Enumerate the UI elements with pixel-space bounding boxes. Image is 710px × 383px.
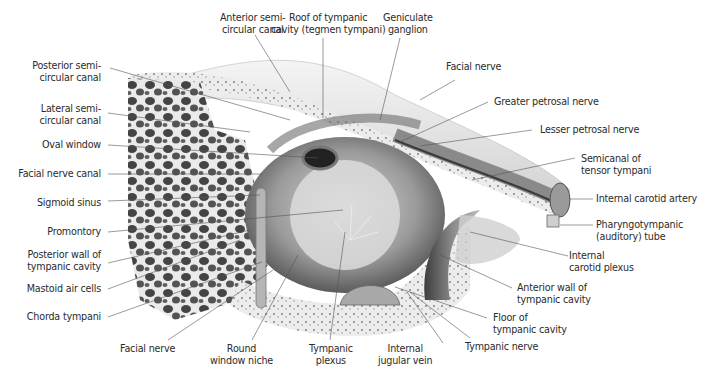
auditory-tube-end	[547, 215, 559, 227]
label-lesser-petrosal-nerve: Lesser petrosal nerve	[540, 124, 639, 136]
label-posterior-wall: Posterior wall of tympanic cavity	[27, 249, 101, 273]
label-tympanic-plexus: Tympanic plexus	[309, 343, 353, 367]
label-line: Lateral semi-	[39, 103, 101, 115]
label-line: Facial nerve	[446, 61, 501, 73]
label-mastoid-air-cells: Mastoid air cells	[27, 283, 101, 295]
label-pharyngotympanic-tube: Pharyngotympanic (auditory) tube	[596, 219, 683, 243]
label-tympanic-nerve: Tympanic nerve	[465, 341, 538, 353]
label-line: Tympanic	[309, 343, 353, 355]
label-line: Posterior semi-	[32, 60, 101, 72]
label-chorda-tympani: Chorda tympani	[27, 311, 101, 323]
label-line: window niche	[210, 355, 273, 367]
label-line: Floor of	[493, 312, 567, 324]
label-line: tympanic cavity	[27, 261, 101, 273]
label-promontory: Promontory	[47, 226, 101, 238]
label-internal-jugular-vein: Internal jugular vein	[378, 343, 432, 367]
label-sigmoid-sinus: Sigmoid sinus	[37, 197, 101, 209]
label-geniculate-ganglion: Geniculate ganglion	[383, 12, 433, 36]
label-line: Posterior wall of	[27, 249, 101, 261]
label-line: Round	[210, 343, 273, 355]
label-line: cavity (tegmen tympani)	[271, 24, 386, 36]
label-line: Internal	[378, 343, 432, 355]
label-semicanal-tensor-tympani: Semicanal of tensor tympani	[581, 153, 651, 177]
label-line: Promontory	[47, 226, 101, 238]
label-line: Geniculate	[383, 12, 433, 24]
label-line: circular canal	[39, 115, 101, 127]
label-facial-nerve-top: Facial nerve	[446, 61, 501, 73]
label-roof-of-tympanic-cavity: Roof of tympanic cavity (tegmen tympani)	[271, 12, 386, 36]
label-lateral-semicircular-canal: Lateral semi- circular canal	[39, 103, 101, 127]
label-greater-petrosal-nerve: Greater petrosal nerve	[494, 96, 599, 108]
label-line: Internal carotid artery	[596, 193, 697, 205]
label-round-window-niche: Round window niche	[210, 343, 273, 367]
label-line: Anterior wall of	[517, 282, 591, 294]
label-line: Sigmoid sinus	[37, 197, 101, 209]
label-line: Oval window	[42, 139, 101, 151]
label-facial-nerve-canal: Facial nerve canal	[18, 168, 101, 180]
label-posterior-semicircular-canal: Posterior semi- circular canal	[32, 60, 101, 84]
label-line: (auditory) tube	[596, 231, 683, 243]
label-line: Chorda tympani	[27, 311, 101, 323]
label-line: Facial nerve canal	[18, 168, 101, 180]
promontory-bulge	[290, 160, 400, 270]
label-line: plexus	[309, 355, 353, 367]
label-line: Roof of tympanic	[271, 12, 386, 24]
label-line: circular canal	[32, 72, 101, 84]
carotid-artery-end	[550, 183, 570, 217]
label-line: carotid plexus	[569, 262, 634, 274]
label-internal-carotid-artery: Internal carotid artery	[596, 193, 697, 205]
label-line: Internal	[569, 250, 634, 262]
label-line: Mastoid air cells	[27, 283, 101, 295]
anatomy-figure: Anterior semi- circular canal Roof of ty…	[0, 0, 710, 383]
label-line: Tympanic nerve	[465, 341, 538, 353]
label-oval-window: Oval window	[42, 139, 101, 151]
label-facial-nerve-bottom: Facial nerve	[120, 343, 175, 355]
label-line: Lesser petrosal nerve	[540, 124, 639, 136]
label-internal-carotid-plexus: Internal carotid plexus	[569, 250, 634, 274]
label-line: Pharyngotympanic	[596, 219, 683, 231]
oval-window	[303, 147, 337, 169]
label-line: tympanic cavity	[517, 294, 591, 306]
label-line: tympanic cavity	[493, 324, 567, 336]
label-line: ganglion	[383, 24, 433, 36]
label-line: jugular vein	[378, 355, 432, 367]
label-anterior-wall: Anterior wall of tympanic cavity	[517, 282, 591, 306]
label-floor-of-tympanic-cavity: Floor of tympanic cavity	[493, 312, 567, 336]
tympanic-cavity-illustration	[0, 0, 710, 383]
label-line: Semicanal of	[581, 153, 651, 165]
chorda-canal	[256, 188, 266, 308]
label-line: Greater petrosal nerve	[494, 96, 599, 108]
label-line: Facial nerve	[120, 343, 175, 355]
label-line: tensor tympani	[581, 165, 651, 177]
